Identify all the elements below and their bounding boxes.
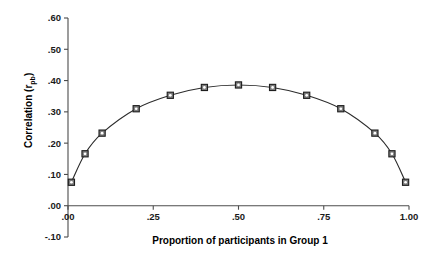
y-axis-tick-label: .60 <box>48 12 61 23</box>
data-point-marker-center <box>374 132 377 135</box>
x-axis-tick-label: .00 <box>61 211 74 222</box>
x-axis-tick-label: .25 <box>147 211 161 222</box>
series-marker-group <box>68 82 408 185</box>
chart-figure: -.10.00.10.20.30.40.50.60 .00.25.50.751.… <box>0 0 431 260</box>
x-axis-tick-label: .75 <box>317 211 331 222</box>
data-point-marker-center <box>135 107 138 110</box>
data-point-marker-center <box>169 94 172 97</box>
series-line-point-biserial <box>71 85 405 182</box>
y-axis-tick-labels: -.10.00.10.20.30.40.50.60 <box>45 12 61 242</box>
y-axis-tick-label: .00 <box>48 200 61 211</box>
x-axis-tick-label: 1.00 <box>400 211 419 222</box>
data-point-marker-center <box>70 181 73 184</box>
x-axis-tick-labels: .00.25.50.751.00 <box>61 211 418 222</box>
y-axis-tick-label: .50 <box>48 44 61 55</box>
y-axis-tick-label: -.10 <box>45 231 61 242</box>
svg-text:Correlation (rpb): Correlation (rpb) <box>23 73 37 148</box>
data-point-marker-center <box>203 86 206 89</box>
x-axis-tick-group <box>68 206 409 210</box>
data-point-marker-center <box>305 94 308 97</box>
y-axis-tick-label: .40 <box>48 75 61 86</box>
y-axis-tick-label: .20 <box>48 138 61 149</box>
data-point-marker-center <box>237 84 240 87</box>
data-point-marker-center <box>404 181 407 184</box>
data-point-marker-center <box>84 152 87 155</box>
data-point-marker-center <box>339 107 342 110</box>
y-axis-tick-group <box>64 18 68 237</box>
y-axis-tick-label: .30 <box>48 106 61 117</box>
y-axis-tick-label: .10 <box>48 169 61 180</box>
y-axis-title-subscript: pb <box>29 76 37 85</box>
data-point-marker-center <box>391 152 394 155</box>
x-axis-title: Proportion of participants in Group 1 <box>152 235 328 246</box>
y-axis-title: Correlation (rpb) <box>23 73 37 148</box>
x-axis-tick-label: .50 <box>232 211 245 222</box>
chart-plot-area: -.10.00.10.20.30.40.50.60 .00.25.50.751.… <box>0 0 431 260</box>
y-axis-title-end: ) <box>23 73 34 76</box>
data-point-marker-center <box>101 132 104 135</box>
data-point-marker-center <box>271 86 274 89</box>
y-axis-title-main: Correlation (r <box>23 85 34 148</box>
